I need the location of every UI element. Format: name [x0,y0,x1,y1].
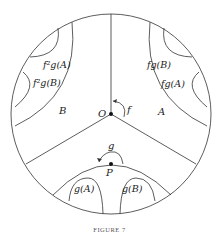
point-O [109,112,113,116]
arc-fgA [192,72,207,107]
arrowhead-f-icon [113,99,117,103]
label-g: g [108,140,114,151]
label-B: B [58,105,66,116]
figure-caption: FIGURE 7 [0,226,219,233]
arrowhead-g-icon [97,158,102,162]
label-fgB: fg(B) [146,59,171,70]
label-P: P [105,167,113,178]
label-O: O [98,108,106,119]
label-f2gA: f²g(A) [42,59,71,70]
label-f2gB: f²g(B) [32,77,61,88]
label-gA: g(A) [74,183,95,194]
label-A: A [157,106,165,117]
hyperbolic-disk-diagram: O P f g A B fg(B) fg(A) f²g(A) f²g(B) g(… [0,0,219,248]
label-fgA: fg(A) [160,78,185,89]
arc-f2gA [30,28,58,57]
label-gB: g(B) [122,183,143,194]
geodesic-lower-left [26,114,111,164]
arc-f2gB [15,72,30,107]
rotation-f-arc [113,101,125,117]
point-P [109,162,113,166]
figure-7: O P f g A B fg(B) fg(A) f²g(A) f²g(B) g(… [0,0,219,248]
arc-fgB [164,28,192,57]
geodesic-lower-right [111,114,196,164]
label-f: f [126,104,133,115]
